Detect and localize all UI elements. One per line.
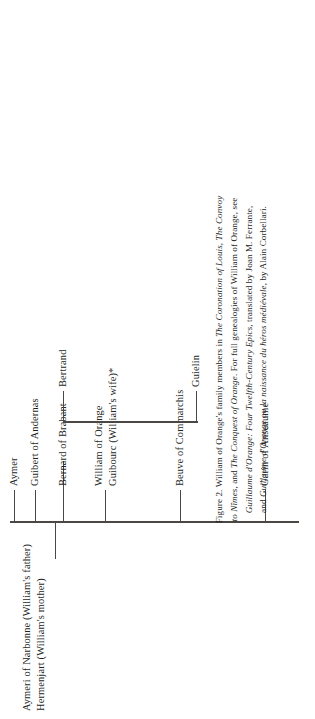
- caption-text: , by Alain Corbellari.: [258, 206, 268, 285]
- figure-page: Aymeri of Narbonne (William's father) He…: [0, 0, 315, 719]
- caption-title: The Coronation of Louis: [214, 245, 224, 337]
- node-aymer: Aymer: [8, 457, 20, 486]
- caption-line: and Guillaume d'Orange ou la naissance d…: [256, 0, 271, 719]
- caption-line: Figure 2. William of Orange's family mem…: [212, 0, 227, 719]
- mother-label: Hermenjart (William's mother): [34, 544, 48, 711]
- children-spine-line: [63, 421, 198, 423]
- node-william-group: William of Orange Guibourc (William's wi…: [92, 368, 119, 486]
- tick-william: [105, 490, 106, 523]
- caption-title: to Nîmes: [229, 489, 239, 522]
- caption-title: The Convoy: [214, 196, 224, 241]
- caption-text: , translated by Joan M. Ferrante,: [244, 206, 254, 327]
- rotated-figure-stage: Aymeri of Narbonne (William's father) He…: [0, 0, 315, 719]
- figure-caption: Figure 2. William of Orange's family mem…: [212, 0, 271, 719]
- tick-guibert: [35, 490, 36, 523]
- tick-aymer: [14, 490, 15, 523]
- node-william: William of Orange: [92, 368, 106, 486]
- node-bertrand: Bertrand: [57, 349, 69, 387]
- caption-text: and: [258, 497, 268, 513]
- tick-beuve: [180, 490, 181, 523]
- caption-text: , and: [229, 468, 239, 489]
- caption-title: Guillaume d'Orange ou la naissance du hé…: [258, 285, 268, 497]
- parent-stem-line: [55, 523, 56, 559]
- tick-bertrand: [63, 391, 64, 423]
- node-guibert: Guibert of Andernas: [29, 398, 41, 486]
- caption-line: to Nîmes, and The Conquest of Orange. Fo…: [227, 0, 242, 719]
- caption-text: . For full genealogies of William of Ora…: [229, 198, 239, 377]
- caption-text: ,: [214, 240, 224, 245]
- family-tree-diagram: Aymeri of Narbonne (William's father) He…: [0, 0, 196, 719]
- node-beuve: Beuve of Commarchis: [174, 390, 186, 486]
- node-guibourc: Guibourc (William's wife)*: [106, 368, 120, 486]
- caption-text: Figure 2. William of Orange's family mem…: [214, 337, 224, 523]
- father-label: Aymeri of Narbonne (William's father): [20, 544, 34, 711]
- tick-guielin: [196, 391, 197, 423]
- caption-title: The Conquest of Orange: [229, 376, 239, 468]
- parents-label-group: Aymeri of Narbonne (William's father) He…: [20, 544, 47, 711]
- caption-title: Guillaume d'Orange: Four Twelfth-Century…: [244, 327, 254, 514]
- caption-line: Guillaume d'Orange: Four Twelfth-Century…: [242, 0, 257, 719]
- node-guielin: Guielin: [190, 355, 202, 387]
